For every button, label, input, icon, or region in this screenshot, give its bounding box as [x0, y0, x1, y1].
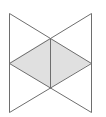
diagram-canvas [0, 0, 106, 117]
geometric-figure [0, 0, 106, 117]
